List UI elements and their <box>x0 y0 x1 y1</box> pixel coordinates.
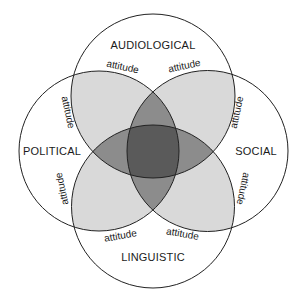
label-political: POLITICAL <box>23 145 81 157</box>
label-social: SOCIAL <box>235 145 277 157</box>
attitude-label-right-lower: attitude <box>235 172 253 207</box>
label-linguistic: LINGUISTIC <box>121 251 185 263</box>
label-audiological: AUDIOLOGICAL <box>111 39 196 51</box>
venn-diagram: AUDIOLOGICAL SOCIAL LINGUISTIC POLITICAL… <box>0 0 303 303</box>
attitude-label-left-lower: attitude <box>53 171 71 206</box>
